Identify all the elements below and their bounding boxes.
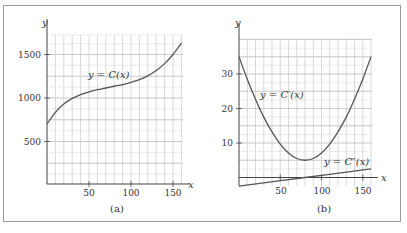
panel-a-label: (a) (110, 203, 124, 214)
panel-a-ytick-500: 500 (24, 137, 41, 147)
panel-a-xtick-50: 50 (83, 188, 95, 198)
panel-a-ytick-1000: 1000 (18, 93, 41, 103)
panel-b-ytick-30: 30 (222, 69, 234, 79)
panel-b-curve1-label: y = C′(x) (259, 89, 304, 100)
panel-a-curve-label: y = C(x) (87, 69, 130, 80)
panel-b-xtick-150: 150 (354, 186, 371, 196)
panel-a-ytick-1500: 1500 (18, 50, 41, 60)
panel-b-xtick-50: 50 (275, 186, 287, 196)
panel-b-curve2-label: y = C″(x) (323, 156, 369, 167)
panel-b-xtick-100: 100 (313, 186, 330, 196)
panel-a-xtick-100: 100 (122, 188, 139, 198)
panel-a-y-axis-label: y (41, 17, 48, 28)
panel-b-x-axis-label: x (381, 172, 387, 183)
panel-a-chart (44, 19, 189, 187)
panel-b-ytick-10: 10 (222, 138, 234, 148)
panel-a-x-axis-label: x (188, 179, 194, 190)
figure-svg: y x 1500 1000 500 50 100 150 y = C(x) (a… (0, 0, 407, 233)
panel-a-xtick-150: 150 (164, 188, 181, 198)
panel-b-label: (b) (317, 203, 331, 214)
panel-b-ytick-20: 20 (222, 104, 234, 114)
panel-b-y-axis-label: y (234, 17, 241, 28)
